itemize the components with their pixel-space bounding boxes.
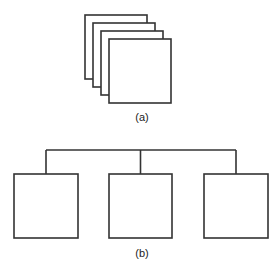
child-square-3 bbox=[204, 174, 268, 238]
stacked-squares-group bbox=[85, 15, 171, 103]
child-square-2 bbox=[109, 174, 172, 238]
diagram-canvas: (a) (b) bbox=[0, 0, 280, 269]
label-a: (a) bbox=[122, 111, 162, 123]
hierarchy-group bbox=[14, 150, 268, 238]
child-square-1 bbox=[14, 174, 78, 238]
diagram-svg bbox=[0, 0, 280, 269]
stacked-square-4 bbox=[109, 39, 171, 103]
label-b: (b) bbox=[122, 247, 162, 259]
